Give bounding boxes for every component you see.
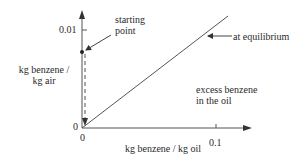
starting-point-label-line2: point [115, 25, 145, 36]
y-axis-label-line1: kg benzene / [16, 64, 72, 75]
y-tick-label-0.01: 0.01 [59, 24, 77, 35]
dashed-path-arrow-icon [82, 118, 88, 126]
starting-point-label: starting point [115, 14, 145, 36]
y-axis-label-line2: kg air [16, 75, 72, 86]
starting-point-dot [80, 50, 84, 54]
excess-benzene-label-line1: excess benzene [196, 84, 257, 95]
x-tick-label-0.1: 0.1 [209, 137, 222, 148]
y-tick-label-0: 0 [73, 121, 78, 132]
y-axis-arrow-icon [79, 10, 85, 19]
x-axis-arrow-icon [243, 125, 252, 131]
equilibrium-label: at equilibrium [233, 31, 289, 42]
equilibrium-line [82, 16, 228, 128]
starting-point-label-line1: starting [115, 14, 145, 25]
x-axis-label: kg benzene / kg oil [125, 143, 201, 154]
excess-benzene-label-line2: in the oil [196, 95, 257, 106]
x-tick-label-0: 0 [80, 132, 85, 143]
y-axis-label: kg benzene / kg air [16, 64, 72, 86]
excess-benzene-label: excess benzene in the oil [196, 84, 257, 106]
starting-point-pointer-arrow [86, 35, 111, 50]
